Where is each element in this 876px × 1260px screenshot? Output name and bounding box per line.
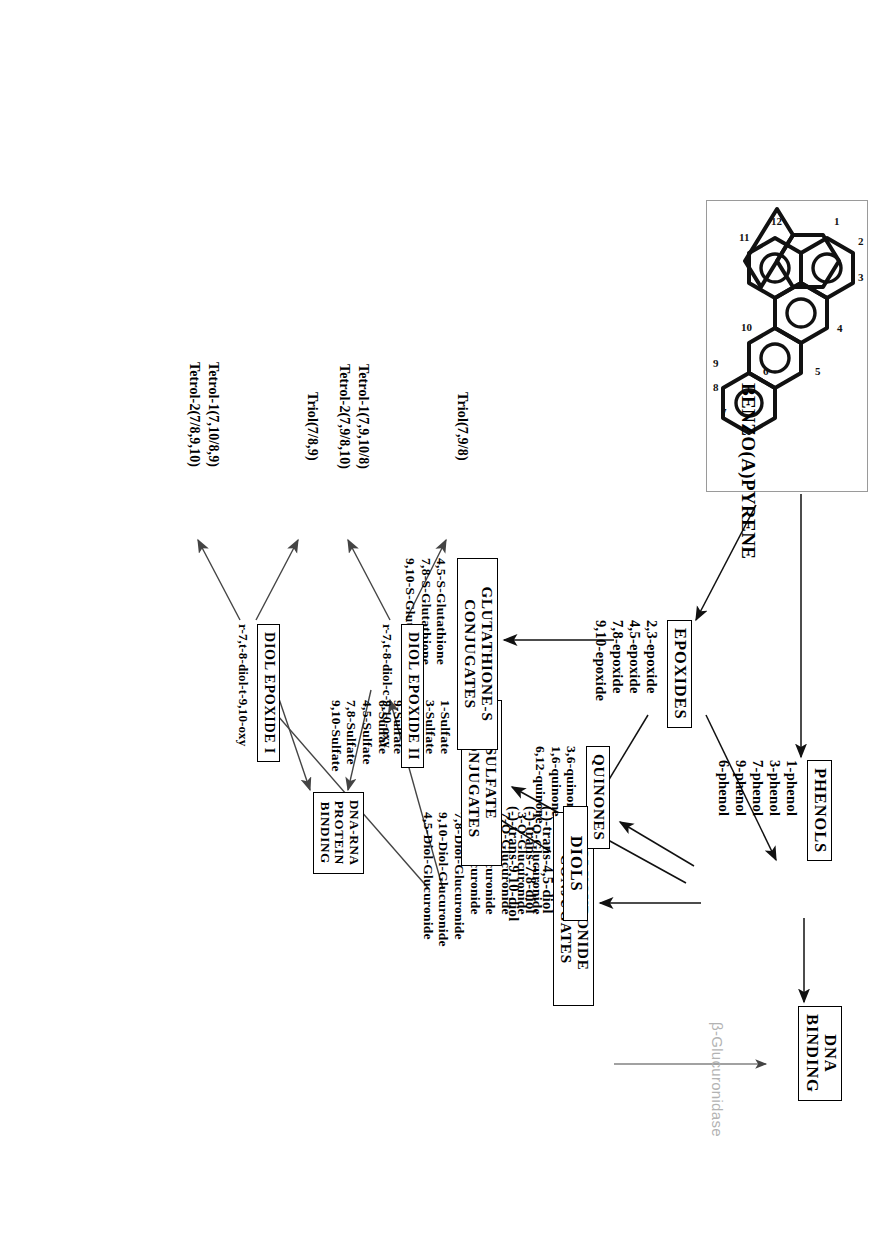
epoxides-items: 2,3-epoxide 4,5-epoxide 7,8-epoxide 9,10… — [592, 620, 659, 728]
svg-text:11: 11 — [739, 231, 749, 243]
diol-epoxide-1-products-left: Tetrol-1(7,10/8,9) Tetrol-2(7/8,9,10) — [184, 362, 222, 467]
svg-text:2: 2 — [858, 235, 864, 247]
diols-items: (-)-trans-4,5-diol (-)-trans-7,8-diol (-… — [505, 806, 555, 921]
benzo-a-pyrene-skeleton: 2 3 1 12 11 4 5 6 7 8 9 10 — [709, 201, 867, 489]
edge-label-beta-glucuronidase: β-Glucuronidase — [709, 1022, 726, 1137]
diol-epoxide-2-products-right: Triol(7,9/8) — [453, 392, 470, 461]
svg-text:3: 3 — [858, 271, 864, 283]
svg-text:5: 5 — [815, 365, 821, 377]
pathway-diagram: 2 3 1 12 11 4 5 6 7 8 9 10 BENZO(A)PYREN… — [0, 0, 876, 1260]
glutathione-title: GLUTATHIONE-S CONJUGATES — [457, 558, 498, 750]
diol-epoxide-2-formula: r-7,t-8-diol-c-9,10-oxy — [380, 624, 396, 768]
quinones-title: QUINONES — [586, 746, 610, 849]
diols-title: DIOLS — [563, 806, 588, 921]
phenols-items: 1-phenol 3-phenol 7-phenol 9-phenol 6-ph… — [715, 760, 799, 861]
node-dna-binding: DNA BINDING — [798, 1006, 842, 1101]
node-diol-epoxide-1: DIOL EPOXIDE I r-7,t-8-diol-t-9,10-oxy — [236, 624, 280, 762]
structure-caption: BENZO(A)PYRENE — [737, 383, 759, 559]
svg-text:6: 6 — [763, 365, 769, 377]
diol-epoxide-1-products-right: Triol(7/8,9) — [303, 392, 320, 461]
svg-text:12: 12 — [771, 215, 783, 227]
diol-epoxide-1-formula: r-7,t-8-diol-t-9,10-oxy — [236, 624, 252, 762]
svg-text:1: 1 — [834, 215, 840, 227]
phenols-title: PHENOLS — [807, 760, 832, 861]
node-dna-rna-protein-binding: DNA-RNA PROTEIN BINDING — [313, 792, 364, 874]
svg-text:9: 9 — [713, 357, 719, 369]
node-epoxides: EPOXIDES 2,3-epoxide 4,5-epoxide 7,8-epo… — [592, 620, 692, 728]
epoxides-title: EPOXIDES — [667, 620, 692, 728]
node-diols: DIOLS (-)-trans-4,5-diol (-)-trans-7,8-d… — [505, 806, 588, 921]
diol-epoxide-2-title: DIOL EPOXIDE II — [401, 624, 424, 768]
svg-text:7: 7 — [721, 406, 727, 418]
diol-epoxide-1-title: DIOL EPOXIDE I — [257, 624, 280, 762]
svg-text:4: 4 — [837, 322, 843, 334]
svg-text:8: 8 — [713, 381, 719, 393]
dna-binding-title: DNA BINDING — [798, 1006, 842, 1101]
node-diol-epoxide-2: DIOL EPOXIDE II r-7,t-8-diol-c-9,10-oxy — [380, 624, 424, 768]
diol-epoxide-2-products-left: Tetrol-1(7,9,10/8) Tetrol-2(7,9/8,10) — [334, 364, 372, 469]
svg-text:10: 10 — [741, 321, 753, 333]
benzo-a-pyrene-structure-panel: 2 3 1 12 11 4 5 6 7 8 9 10 BENZO(A)PYREN… — [706, 200, 868, 492]
node-phenols: PHENOLS 1-phenol 3-phenol 7-phenol 9-phe… — [715, 760, 832, 861]
dna-rna-protein-binding-title: DNA-RNA PROTEIN BINDING — [313, 792, 364, 874]
